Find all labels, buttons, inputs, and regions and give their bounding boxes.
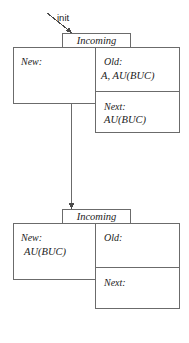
node-top-tab-label: Incoming — [62, 34, 131, 47]
edge-top-to-bottom — [69, 104, 75, 210]
node-bottom-old-label: Old: — [104, 232, 122, 244]
node-top-old-label: Old: — [104, 56, 122, 68]
node-bottom-old-cell — [96, 224, 180, 268]
diagram-vector-layer — [0, 0, 189, 343]
node-top-next-value: AU(BUC) — [104, 114, 146, 126]
node-top-new-label: New: — [21, 56, 42, 68]
init-label: init — [57, 12, 69, 23]
node-top-next-label: Next: — [104, 101, 126, 113]
node-bottom-next-label: Next: — [104, 277, 126, 289]
node-top-old-value: A, AU(BUC) — [101, 70, 154, 82]
diagram-canvas: init Incoming New: Old: A, AU(BUC) Next:… — [0, 0, 189, 343]
node-bottom-new-value: AU(BUC) — [24, 246, 66, 258]
node-bottom-new-label: New: — [21, 232, 42, 244]
node-bottom-tab-label: Incoming — [62, 210, 131, 223]
